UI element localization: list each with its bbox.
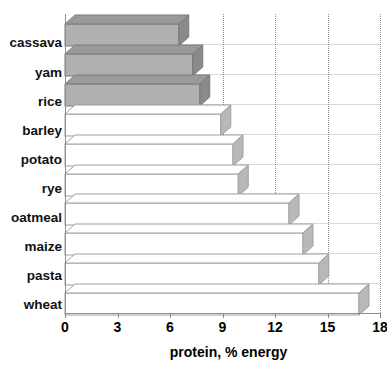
bar-wheat [65,284,369,315]
x-tick-label-15: 15 [320,319,336,335]
protein-energy-bar-chart: cassava yam rice barley potato rye oatme… [0,0,387,374]
bar-top-face [65,105,231,114]
category-label-pasta: pasta [27,268,62,283]
category-label-rice: rice [38,94,62,109]
x-tick-15 [328,313,329,318]
bar-oatmeal [65,194,299,225]
category-label-oatmeal: oatmeal [11,210,62,225]
bar-top-face [65,284,369,293]
x-axis-caption: protein, % energy [0,344,387,360]
bar-front-face [65,293,359,315]
bar-rice [65,75,210,106]
bar-barley [65,105,231,136]
bar-cassava [65,15,189,46]
bar-top-face [65,75,210,84]
bar-potato [65,135,243,166]
x-tick-6 [170,313,171,318]
bar-top-face [65,194,299,203]
x-tick-0 [65,313,66,318]
category-label-barley: barley [22,123,62,138]
bar-yam [65,45,203,76]
plot-area [65,14,380,313]
bar-top-face [65,254,329,263]
bar-top-face [65,45,203,54]
category-label-cassava: cassava [9,35,62,50]
bar-front-face [65,203,289,225]
bar-front-face [65,24,179,46]
category-label-potato: potato [21,152,62,167]
x-tick-18 [380,313,381,318]
bar-front-face [65,233,303,255]
y-axis-line [65,14,66,314]
x-tick-label-18: 18 [372,319,387,335]
bar-pasta [65,254,329,285]
x-tick-label-12: 12 [267,319,283,335]
x-tick-label-6: 6 [166,319,174,335]
x-tick-label-0: 0 [61,319,69,335]
category-axis-labels: cassava yam rice barley potato rye oatme… [0,0,62,374]
bar-maize [65,224,313,255]
gridline-18 [380,14,381,313]
bar-front-face [65,54,193,76]
x-tick-label-9: 9 [219,319,227,335]
bar-top-face [65,135,243,144]
category-label-wheat: wheat [24,297,62,312]
bar-front-face [65,174,238,196]
bar-front-face [65,114,221,136]
x-tick-label-3: 3 [114,319,122,335]
category-label-maize: maize [24,239,62,254]
category-label-yam: yam [35,65,62,80]
bar-top-face [65,224,313,233]
category-label-rye: rye [42,181,62,196]
x-tick-3 [118,313,119,318]
bar-front-face [65,84,200,106]
bar-rye [65,165,248,196]
x-tick-12 [275,313,276,318]
bar-front-face [65,263,319,285]
bar-top-face [65,165,248,174]
x-axis-caption-text: protein, % energy [100,344,287,360]
bar-front-face [65,144,233,166]
x-tick-9 [223,313,224,318]
bar-top-face [65,15,189,24]
